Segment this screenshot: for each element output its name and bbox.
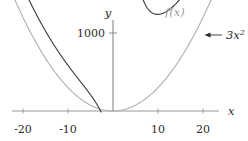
x-tick-label-20: 20	[196, 123, 210, 136]
curve-3x2-label: 3x2	[226, 28, 245, 42]
x-tick-label-minus10: -10	[59, 123, 77, 136]
annotation-arrow	[205, 33, 223, 38]
function-plot-figure: y x 1000 -20 -10 10 20 f(x) 3x2	[0, 0, 248, 141]
curve-3x2-right-branch	[113, 0, 213, 111]
curve-3x2-label-exponent: 2	[239, 28, 245, 37]
y-tick-label-1000: 1000	[77, 27, 105, 40]
x-tick-label-10: 10	[151, 123, 165, 136]
x-axis-label: x	[228, 104, 235, 118]
x-tick-label-minus20: -20	[14, 123, 32, 136]
y-axis-label: y	[104, 6, 112, 20]
curve-f-left-branch	[26, 0, 101, 112]
curve-f-label: f(x)	[164, 5, 185, 19]
curve-3x2-label-base: 3x	[226, 28, 240, 42]
curve-3x2-left-branch	[13, 0, 113, 111]
plot-canvas: y x 1000 -20 -10 10 20 f(x) 3x2	[0, 0, 248, 141]
parabola-sample-left	[14, 0, 77, 141]
